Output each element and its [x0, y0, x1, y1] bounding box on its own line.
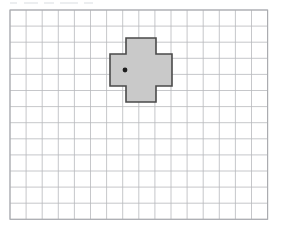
point-marker-dot — [123, 68, 128, 73]
grid-and-shape-figure — [0, 0, 283, 230]
plus-polygon — [110, 38, 172, 102]
diagram-canvas: cross dot — [0, 0, 283, 230]
